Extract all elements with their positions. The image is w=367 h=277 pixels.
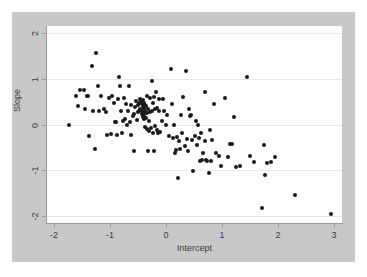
x-tick-mark (166, 224, 167, 228)
y-tick-label: 2 (30, 27, 41, 41)
data-point (150, 79, 154, 83)
x-tick-label: -1 (95, 230, 125, 241)
gridline-y (46, 216, 342, 217)
data-point (187, 107, 191, 111)
data-point (122, 96, 126, 100)
data-point (157, 97, 161, 101)
data-point (170, 102, 174, 106)
data-point (195, 143, 199, 147)
data-point (157, 109, 161, 113)
data-point (196, 123, 200, 127)
data-point (114, 120, 118, 124)
data-point (152, 95, 156, 99)
data-point (197, 136, 201, 140)
data-point (191, 169, 195, 173)
data-point (118, 84, 122, 88)
y-tick-label: -2 (30, 210, 41, 224)
x-tick-mark (110, 224, 111, 228)
x-tick-label: 1 (207, 230, 237, 241)
data-point (219, 164, 223, 168)
data-point (123, 117, 127, 121)
data-point (180, 131, 184, 135)
data-point (252, 160, 256, 164)
data-point (189, 113, 193, 117)
y-tick-mark (42, 170, 46, 171)
data-point (230, 142, 234, 146)
data-point (90, 64, 94, 68)
data-point (263, 173, 267, 177)
data-point (115, 133, 119, 137)
data-point (226, 155, 230, 159)
data-point (124, 102, 128, 106)
y-tick-label: 1 (30, 73, 41, 87)
data-point (208, 128, 212, 132)
data-point (160, 119, 164, 123)
data-point (273, 155, 277, 159)
y-tick-mark (42, 33, 46, 34)
x-axis-line (46, 223, 343, 224)
data-point (76, 104, 80, 108)
data-point (177, 139, 181, 143)
data-point (132, 149, 136, 153)
data-point (178, 147, 182, 151)
data-point (93, 147, 97, 151)
data-point (165, 113, 169, 117)
data-point (238, 164, 242, 168)
data-point (104, 110, 108, 114)
data-point (147, 119, 151, 123)
data-point (99, 94, 103, 98)
y-axis-line (46, 26, 47, 224)
data-point (129, 103, 133, 107)
data-point (127, 84, 131, 88)
y-tick-mark (42, 79, 46, 80)
data-point (269, 160, 273, 164)
data-point (162, 109, 166, 113)
data-point (171, 136, 175, 140)
data-point (248, 154, 252, 158)
data-point (199, 131, 203, 135)
gridline-y (46, 125, 342, 126)
data-point (185, 137, 189, 141)
data-point (91, 109, 95, 113)
data-point (67, 123, 71, 127)
gridline-y (46, 33, 342, 34)
y-tick-mark (42, 216, 46, 217)
data-point (112, 101, 116, 105)
data-point (154, 90, 158, 94)
data-point (109, 132, 113, 136)
x-axis-title: Intercept (46, 243, 343, 253)
data-point (183, 144, 187, 148)
data-point (265, 161, 269, 165)
data-point (223, 96, 227, 100)
y-tick-label: -1 (30, 164, 41, 178)
x-tick-mark (54, 224, 55, 228)
data-point (151, 131, 155, 135)
data-point (83, 107, 87, 111)
data-point (181, 95, 185, 99)
data-point (82, 88, 86, 92)
data-point (97, 109, 101, 113)
data-point (203, 90, 207, 94)
data-point (135, 118, 139, 122)
x-tick-mark (334, 224, 335, 228)
data-point (116, 97, 120, 101)
data-point (119, 109, 123, 113)
data-point (128, 120, 132, 124)
data-point (78, 88, 82, 92)
data-point (94, 51, 98, 55)
data-point (176, 176, 180, 180)
data-point (129, 133, 133, 137)
x-tick-mark (222, 224, 223, 228)
x-tick-label: -2 (39, 230, 69, 241)
data-point (262, 143, 266, 147)
data-point (169, 67, 173, 71)
data-point (217, 154, 221, 158)
data-point (158, 130, 162, 134)
y-axis-title: Slope (12, 89, 22, 112)
data-point (203, 139, 207, 143)
gridline-y (46, 79, 342, 80)
x-tick-label: 3 (319, 230, 349, 241)
y-tick-label: 0 (30, 119, 41, 133)
data-point (210, 138, 214, 142)
data-point (179, 113, 183, 117)
